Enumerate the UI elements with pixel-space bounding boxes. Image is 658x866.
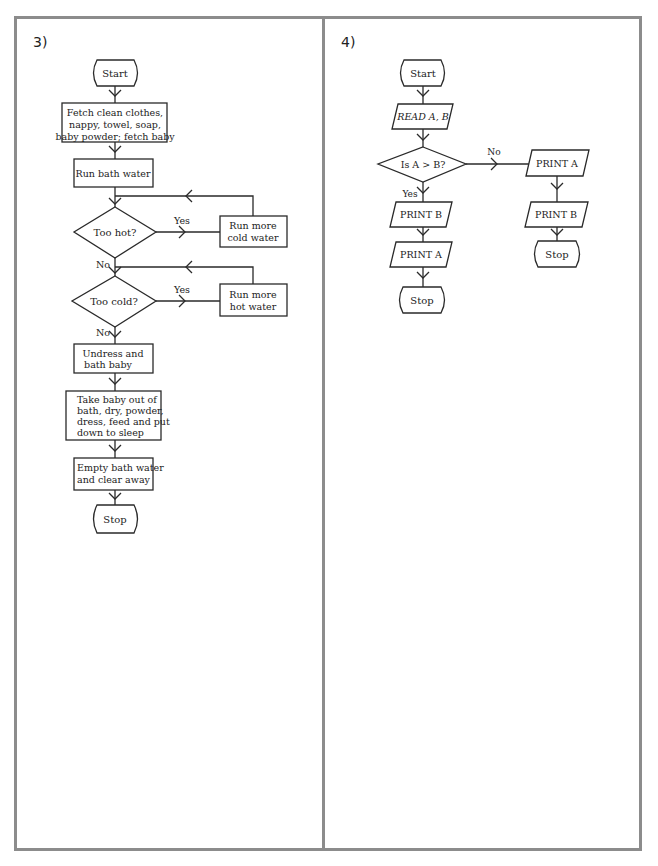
node-run-bath-label: Run bath water	[76, 168, 151, 179]
node-undress: Undress and bath baby	[74, 344, 153, 373]
node-yes-print-b-label: PRINT B	[400, 209, 442, 220]
node-take-out-line: dress, feed and put	[77, 416, 170, 427]
edge-label-no: No	[96, 259, 110, 270]
node-no-print-b-label: PRINT B	[535, 209, 577, 220]
node-fetch: Fetch clean clothes, nappy, towel, soap,…	[55, 103, 175, 142]
node-run-cold-line: Run more	[229, 220, 277, 231]
node-take-baby-out: Take baby out of bath, dry, powder, dres…	[66, 391, 170, 440]
node-empty-line: and clear away	[77, 474, 151, 485]
node-decision-a-gt-b: Is A > B?	[378, 147, 466, 182]
edge-label-yes: Yes	[173, 284, 190, 295]
node-start: Start	[401, 60, 445, 86]
node-read-a-b: READ A, B	[392, 104, 453, 129]
node-run-hot-line: Run more	[229, 289, 277, 300]
node-run-cold-line: cold water	[228, 232, 279, 243]
node-fetch-line: Fetch clean clothes,	[67, 107, 163, 118]
edge-label-no: No	[487, 147, 500, 157]
node-too-hot-decision: Too hot?	[74, 207, 156, 258]
node-stop-label: Stop	[103, 514, 126, 525]
node-empty-line: Empty bath water	[77, 462, 164, 473]
node-undress-line: Undress and	[82, 348, 143, 359]
node-read-label: READ A, B	[396, 111, 448, 122]
node-no-print-a: PRINT A	[526, 150, 589, 176]
node-start-label: Start	[410, 68, 436, 79]
node-undress-line: bath baby	[84, 359, 133, 370]
node-no-print-a-label: PRINT A	[536, 158, 578, 169]
node-run-bath-water: Run bath water	[74, 159, 153, 187]
node-take-out-line: down to sleep	[77, 427, 144, 438]
edge-label-yes: Yes	[401, 189, 417, 199]
node-no-stop: Stop	[535, 241, 580, 267]
node-take-out-line: Take baby out of	[77, 394, 158, 405]
node-run-more-hot-water: Run more hot water	[220, 284, 287, 316]
flowchart-compare-ab: Start READ A, B Is A > B? No Yes PRINT A…	[378, 60, 589, 313]
node-yes-print-b: PRINT B	[390, 202, 452, 227]
node-yes-stop: Stop	[400, 287, 445, 313]
node-fetch-line: nappy, towel, soap,	[69, 119, 161, 130]
flowcharts: Start Fetch clean clothes, nappy, towel,…	[0, 0, 658, 866]
edge-coldwater-loop	[115, 196, 253, 216]
node-decision-label: Is A > B?	[401, 159, 446, 170]
node-start: Start	[94, 60, 138, 86]
node-take-out-line: bath, dry, powder,	[77, 405, 164, 416]
node-too-hot-label: Too hot?	[94, 227, 137, 238]
node-stop: Stop	[94, 505, 138, 533]
node-no-print-b: PRINT B	[525, 202, 588, 227]
edge-label-no: No	[96, 327, 110, 338]
node-run-hot-line: hot water	[230, 301, 277, 312]
flowchart-bath-baby: Start Fetch clean clothes, nappy, towel,…	[55, 60, 287, 533]
node-yes-stop-label: Stop	[410, 295, 433, 306]
node-yes-print-a-label: PRINT A	[400, 249, 442, 260]
node-too-cold-decision: Too cold?	[72, 276, 156, 327]
node-empty-bath: Empty bath water and clear away	[74, 458, 164, 490]
node-yes-print-a: PRINT A	[390, 242, 452, 267]
node-run-more-cold-water: Run more cold water	[220, 216, 287, 247]
node-no-stop-label: Stop	[545, 249, 568, 260]
node-fetch-line: baby powder; fetch baby	[55, 131, 175, 142]
edge-hotwater-loop	[115, 267, 253, 284]
edge-label-yes: Yes	[173, 215, 190, 226]
node-too-cold-label: Too cold?	[90, 296, 138, 307]
node-start-label: Start	[102, 68, 128, 79]
